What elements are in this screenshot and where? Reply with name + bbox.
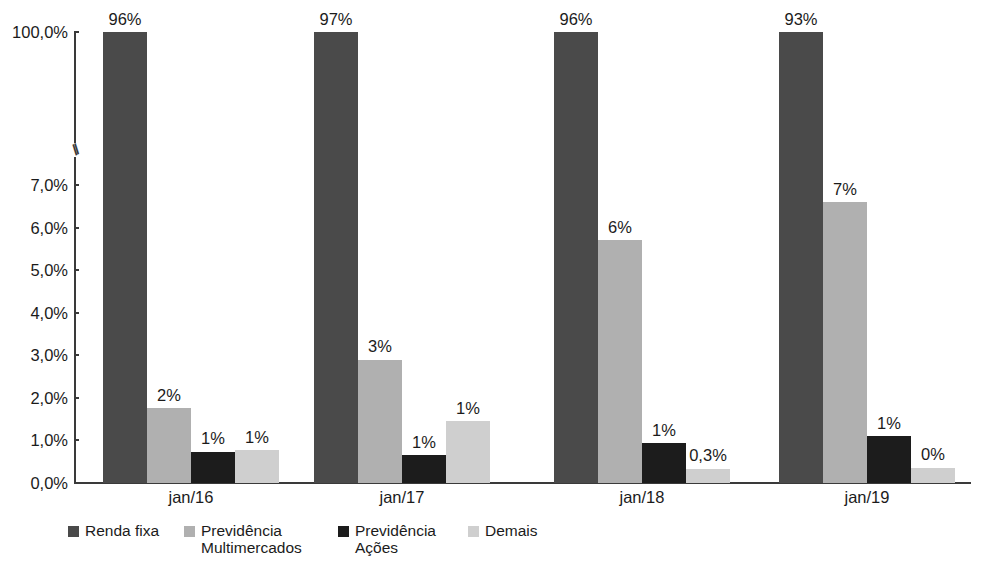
bar-jan-19-series-2: 7% (823, 202, 867, 483)
bar-value-label: 0% (921, 446, 945, 463)
bar-value-label: 1% (412, 434, 436, 451)
bar-chart: // 0,0%1,0%2,0%3,0%4,0%5,0%6,0%7,0%100,0… (0, 0, 988, 570)
chart-legend: Renda fixaPrevidência MultimercadosPrevi… (68, 522, 568, 568)
y-axis-tick-10: 1,0% (4, 432, 74, 449)
bar-jan-18-series-3: 1% (642, 443, 686, 483)
y-axis-tick-mark (74, 269, 79, 271)
bar-value-label: 6% (608, 219, 632, 236)
bar-value-label: 96% (108, 11, 141, 28)
legend-item-1[interactable]: Renda fixa (68, 522, 159, 539)
bar-value-label: 7% (833, 181, 857, 198)
bar-group-jan-17: 97%3%1%1% (314, 32, 490, 483)
y-axis-tick-mark (74, 439, 79, 441)
legend-item-3[interactable]: Previdência Ações (338, 522, 436, 556)
bar-value-label: 1% (877, 415, 901, 432)
bar-group-jan-16: 96%2%1%1% (103, 32, 279, 483)
x-axis-tick-jan-19: jan/19 (779, 489, 955, 506)
bar-jan-19-series-3: 1% (867, 436, 911, 483)
bar-jan-19-series-4: 0% (911, 468, 955, 483)
bar-jan-16-series-3: 1% (191, 452, 235, 483)
y-axis-tick-mark (74, 184, 79, 186)
bar-jan-18-series-4: 0,3% (686, 469, 730, 483)
y-axis-tick-60: 6,0% (4, 220, 74, 237)
bar-jan-17-series-3: 1% (402, 455, 446, 483)
y-axis-tick-50: 5,0% (4, 262, 74, 279)
y-axis-tick-40: 4,0% (4, 305, 74, 322)
bar-value-label: 3% (368, 338, 392, 355)
legend-label: Previdência Multimercados (201, 522, 302, 556)
x-axis-tick-jan-18: jan/18 (554, 489, 730, 506)
y-axis-tick-70: 7,0% (4, 177, 74, 194)
legend-label: Demais (485, 522, 538, 539)
y-axis-tick-30: 3,0% (4, 347, 74, 364)
bar-value-label: 1% (652, 422, 676, 439)
bar-value-label: 2% (157, 387, 181, 404)
legend-swatch-icon (184, 526, 195, 537)
y-axis-tick-mark (74, 31, 79, 33)
bar-jan-18-series-1: 96% (554, 32, 598, 483)
bar-group-jan-18: 96%6%1%0,3% (554, 32, 730, 483)
bar-jan-17-series-1: 97% (314, 32, 358, 483)
bar-value-label: 97% (319, 11, 352, 28)
y-axis-tick-mark (74, 482, 79, 484)
bar-value-label: 96% (559, 11, 592, 28)
bar-jan-16-series-1: 96% (103, 32, 147, 483)
bar-group-jan-19: 93%7%1%0% (779, 32, 955, 483)
bar-value-label: 1% (245, 429, 269, 446)
bar-jan-19-series-1: 93% (779, 32, 823, 483)
bar-value-label: 0,3% (689, 447, 727, 464)
legend-swatch-icon (338, 526, 349, 537)
legend-label: Previdência Ações (355, 522, 436, 556)
legend-label: Renda fixa (85, 522, 159, 539)
legend-item-4[interactable]: Demais (468, 522, 538, 539)
bar-value-label: 1% (456, 400, 480, 417)
y-axis-tick-mark (74, 354, 79, 356)
plot-area: 96%2%1%1%97%3%1%1%96%6%1%0,3%93%7%1%0% (74, 32, 969, 483)
bar-jan-17-series-4: 1% (446, 421, 490, 483)
bar-jan-17-series-2: 3% (358, 360, 402, 483)
y-axis-tick-mark (74, 227, 79, 229)
y-axis-tick-mark (74, 312, 79, 314)
bar-value-label: 1% (201, 430, 225, 447)
y-axis-tick-20: 2,0% (4, 390, 74, 407)
legend-item-2[interactable]: Previdência Multimercados (184, 522, 302, 556)
legend-swatch-icon (468, 526, 479, 537)
legend-swatch-icon (68, 526, 79, 537)
y-axis-tick-labels: 0,0%1,0%2,0%3,0%4,0%5,0%6,0%7,0%100,0% (0, 0, 74, 570)
x-axis-tick-jan-16: jan/16 (103, 489, 279, 506)
y-axis-tick-mark (74, 397, 79, 399)
bar-value-label: 93% (784, 11, 817, 28)
bar-jan-16-series-2: 2% (147, 408, 191, 483)
bar-jan-18-series-2: 6% (598, 240, 642, 483)
x-axis-tick-jan-17: jan/17 (314, 489, 490, 506)
bar-jan-16-series-4: 1% (235, 450, 279, 483)
y-axis-tick-1000: 100,0% (4, 24, 74, 41)
y-axis-tick-00: 0,0% (4, 475, 74, 492)
